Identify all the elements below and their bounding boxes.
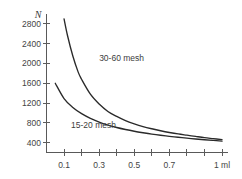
chart-screenshot: 40080012001600200024002800 0.10.30.50.71… (0, 0, 242, 179)
x-tick-label: 1 ml (214, 160, 230, 170)
y-tick-label: 800 (27, 118, 41, 128)
curve-15-20-mesh (55, 83, 222, 141)
y-tick-label: 1200 (22, 98, 41, 108)
x-tick-label: 0.5 (128, 160, 140, 170)
chart-annotations: 30-60 mesh15-20 mesh (71, 53, 144, 130)
y-tick-label: 2000 (22, 58, 41, 68)
y-tick-label: 400 (27, 138, 41, 148)
y-tick-label: 2800 (22, 19, 41, 29)
chart-figure: 40080012001600200024002800 0.10.30.50.71… (0, 0, 242, 179)
x-tick-label: 0.1 (58, 160, 70, 170)
annotation-15-20-mesh: 15-20 mesh (71, 120, 116, 130)
annotation-30-60-mesh: 30-60 mesh (99, 53, 144, 63)
y-axis-ticks: 40080012001600200024002800 (22, 19, 49, 148)
x-tick-label: 0.7 (163, 160, 175, 170)
y-tick-label: 1600 (22, 78, 41, 88)
y-tick-label: 2400 (22, 39, 41, 49)
x-tick-label: 0.3 (93, 160, 105, 170)
y-axis-title: N (34, 9, 43, 20)
